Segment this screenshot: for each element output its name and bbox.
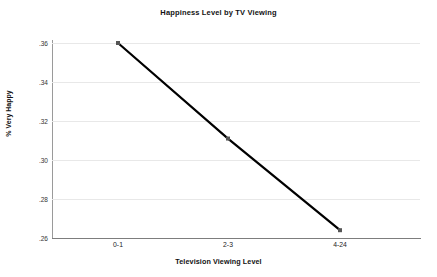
data-point-marker: [338, 228, 342, 232]
chart-container: Happiness Level by TV Viewing % Very Hap…: [0, 0, 437, 277]
data-series-line: [0, 0, 437, 277]
data-point-marker: [226, 137, 230, 141]
data-point-marker: [116, 41, 120, 45]
x-axis-title: Television Viewing Level: [0, 257, 437, 266]
